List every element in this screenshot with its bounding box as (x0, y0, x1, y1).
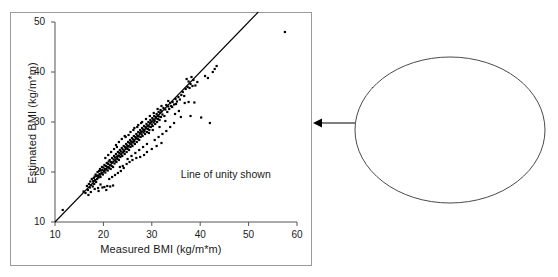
figure-container: Measured BMI (kg/m*m) Estimated BMI (kg/… (0, 0, 558, 277)
vector-layer (0, 0, 558, 277)
callout-ellipse (355, 57, 545, 203)
callout-arrow (313, 119, 355, 128)
scatter-points (62, 31, 286, 211)
